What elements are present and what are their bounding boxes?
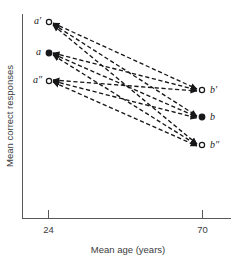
label-b-prime: b′ — [210, 84, 218, 95]
label-a-prime: a′ — [34, 15, 42, 26]
label-a-double-prime: a″ — [33, 74, 43, 85]
x-tick-label-24: 24 — [43, 224, 54, 235]
y-axis-title: Mean correct responses — [4, 65, 15, 167]
label-b: b — [210, 111, 215, 122]
label-a: a — [36, 46, 41, 57]
connection-a-b-double-prime — [53, 55, 197, 145]
point-b-double-prime — [199, 142, 204, 147]
x-axis-title: Mean age (years) — [91, 244, 165, 255]
point-a-prime — [46, 19, 51, 24]
axis-text: 24 70 Mean age (years) Mean correct resp… — [4, 65, 208, 255]
figure-canvas: a′ a a″ b′ b b″ 24 70 Mean age (years) M… — [0, 0, 239, 262]
connection-a-prime-b — [53, 24, 197, 116]
connection-a-prime-b-prime — [53, 23, 197, 89]
connection-a-double-prime-b-double-prime — [53, 82, 197, 146]
connection-a-b-prime — [53, 53, 197, 90]
connection-lines — [53, 23, 197, 146]
point-b — [199, 114, 205, 120]
point-a — [46, 50, 52, 56]
connection-a-b — [53, 54, 197, 117]
point-a-double-prime — [46, 78, 51, 83]
scatter-plot: a′ a a″ b′ b b″ 24 70 Mean age (years) M… — [0, 0, 239, 262]
x-tick-label-70: 70 — [197, 224, 208, 235]
point-b-prime — [199, 87, 204, 92]
label-b-double-prime: b″ — [210, 139, 220, 150]
